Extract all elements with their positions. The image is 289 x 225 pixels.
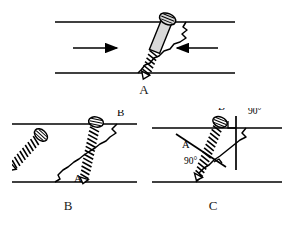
label-b: B bbox=[218, 108, 225, 112]
right-angle-marker-cortex bbox=[228, 121, 236, 128]
figure-root: A bbox=[0, 0, 289, 225]
screw-threads bbox=[194, 126, 222, 177]
panel-b-diagram: A B bbox=[12, 110, 137, 192]
label-a: A bbox=[182, 139, 190, 150]
panel-caption-b: B bbox=[58, 198, 78, 214]
panel-caption-c: C bbox=[203, 198, 223, 214]
label-b: B bbox=[117, 110, 124, 118]
panel-a-diagram bbox=[55, 6, 235, 82]
angle-label-fracture: 90° bbox=[184, 156, 198, 166]
panel-c-diagram: A B 90° 90° bbox=[152, 108, 282, 192]
panel-b: A B bbox=[12, 110, 137, 192]
screw-threads bbox=[12, 136, 41, 169]
panel-c: A B 90° 90° bbox=[152, 108, 282, 192]
bisecting-screw bbox=[189, 115, 228, 184]
panel-a bbox=[55, 6, 235, 82]
fracture-line bbox=[196, 128, 246, 182]
angle-label-cortex: 90° bbox=[248, 108, 262, 116]
screw-threads bbox=[79, 127, 99, 179]
label-a: A bbox=[74, 172, 82, 184]
panel-caption-a: A bbox=[134, 82, 154, 98]
screw-a bbox=[12, 126, 50, 175]
